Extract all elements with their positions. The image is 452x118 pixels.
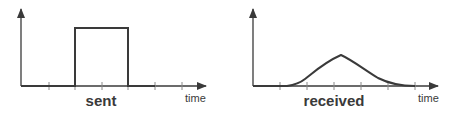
received-caption: received <box>304 92 365 109</box>
sent-diagram: sent time <box>21 9 206 109</box>
received-diagram: received time <box>253 9 439 109</box>
diagram-canvas: sent time received time <box>0 0 452 118</box>
received-x-axis-label: time <box>418 92 439 104</box>
sent-x-axis-label: time <box>185 92 206 104</box>
received-signal <box>253 55 415 86</box>
sent-caption: sent <box>86 92 117 109</box>
sent-signal <box>21 28 155 86</box>
